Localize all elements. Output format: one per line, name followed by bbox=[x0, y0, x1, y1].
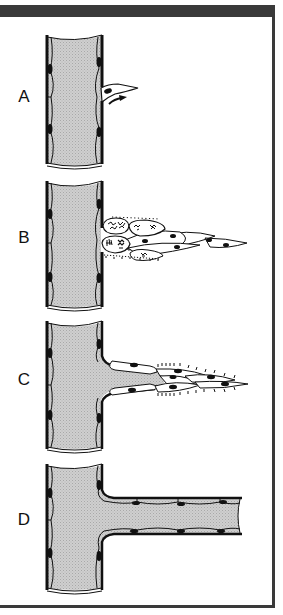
angiogenesis-diagram bbox=[0, 0, 283, 615]
panel-b-sprout-cells bbox=[102, 217, 247, 261]
panel-a-vessel bbox=[47, 35, 102, 169]
panel-b-vessel bbox=[47, 181, 102, 311]
migration-arrow-icon bbox=[109, 95, 127, 104]
panel-d-vessel bbox=[47, 464, 242, 594]
